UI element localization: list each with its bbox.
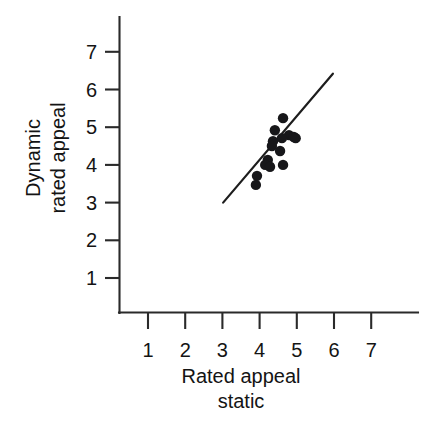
x-axis-title-line-1: Rated appeal xyxy=(182,365,301,387)
x-tick-label-2: 2 xyxy=(180,339,191,361)
y-tick-label-6: 6 xyxy=(86,79,97,101)
data-point-14 xyxy=(251,180,261,190)
y-tick-label-2: 2 xyxy=(86,229,97,251)
y-tick-labels: 1234567 xyxy=(86,41,97,289)
data-point-13 xyxy=(252,171,262,181)
y-axis-title-line-2: rated appeal xyxy=(47,102,69,213)
data-point-11 xyxy=(265,162,275,172)
x-axis-title-line-2: static xyxy=(218,390,265,412)
y-axis-title: Dynamic rated appeal xyxy=(22,102,69,213)
x-tick-marks xyxy=(148,313,371,329)
y-tick-label-3: 3 xyxy=(86,192,97,214)
y-axis-title-line-1: Dynamic xyxy=(22,119,44,197)
x-tick-label-4: 4 xyxy=(254,339,265,361)
x-tick-label-7: 7 xyxy=(366,339,377,361)
data-point-8 xyxy=(275,146,285,156)
x-tick-label-1: 1 xyxy=(142,339,153,361)
scatter-plot-figure: 1234567 1234567 Dynamic rated appeal Rat… xyxy=(0,0,432,424)
y-tick-label-7: 7 xyxy=(86,41,97,63)
y-tick-label-4: 4 xyxy=(86,154,97,176)
data-point-5 xyxy=(277,133,287,143)
plot-canvas: 1234567 1234567 Dynamic rated appeal Rat… xyxy=(0,0,432,424)
data-points xyxy=(251,113,301,190)
x-tick-labels: 1234567 xyxy=(142,339,376,361)
data-point-4 xyxy=(290,133,300,143)
y-tick-label-5: 5 xyxy=(86,116,97,138)
x-tick-label-3: 3 xyxy=(217,339,228,361)
y-tick-label-1: 1 xyxy=(86,267,97,289)
x-tick-label-5: 5 xyxy=(291,339,302,361)
data-point-12 xyxy=(278,160,288,170)
data-point-0 xyxy=(278,113,288,123)
y-tick-marks xyxy=(105,52,119,278)
x-tick-label-6: 6 xyxy=(328,339,339,361)
data-point-1 xyxy=(270,125,280,135)
x-axis-title: Rated appeal static xyxy=(182,365,301,412)
